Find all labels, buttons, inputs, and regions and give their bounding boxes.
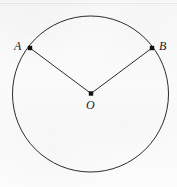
- point-label-b: B: [159, 40, 166, 52]
- geometry-canvas: [0, 0, 177, 187]
- point-label-o: O: [86, 99, 95, 111]
- circle-diagram-figure: A B O: [0, 0, 177, 187]
- radius-segment-ob: [91, 48, 152, 94]
- point-marker-a: [28, 46, 32, 50]
- point-label-a: A: [14, 40, 21, 52]
- point-marker-b: [150, 46, 154, 50]
- radius-segment-oa: [30, 48, 91, 94]
- point-marker-o: [89, 91, 93, 95]
